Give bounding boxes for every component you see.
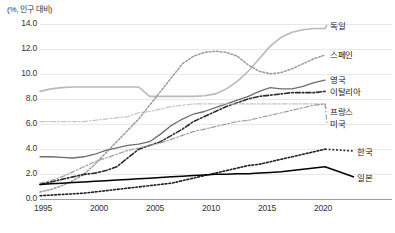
series-line-italy xyxy=(40,91,325,184)
series-label-france: 프랑스 xyxy=(330,105,353,117)
series-label-italy: 이탈리아 xyxy=(330,85,361,97)
series-label-germany: 독일 xyxy=(330,19,345,31)
series-leader-germany xyxy=(325,25,327,29)
series-line-germany xyxy=(40,29,325,97)
series-leader-japan xyxy=(325,167,354,177)
series-lines xyxy=(40,25,354,196)
series-label-spain: 스페인 xyxy=(330,48,353,60)
series-label-japan: 일본 xyxy=(357,171,372,183)
series-line-uk xyxy=(40,80,325,158)
series-label-usa: 미국 xyxy=(330,117,345,129)
gridlines xyxy=(40,25,392,175)
series-label-korea: 한국 xyxy=(357,145,372,157)
chart-container: (%, 인구 대비) 14.0 12.0 10.0 8.0 6.0 4.0 2.… xyxy=(0,0,395,233)
series-label-uk: 영국 xyxy=(330,73,345,85)
series-line-korea xyxy=(40,149,325,196)
